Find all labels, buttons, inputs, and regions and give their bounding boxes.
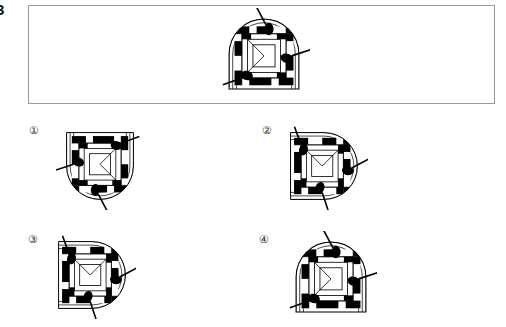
question-number: 3 [0, 2, 3, 18]
stimulus-figure [218, 8, 310, 100]
option-figure-1[interactable] [56, 122, 144, 210]
option-label-2: ② [262, 124, 272, 136]
option-label-1: ① [29, 124, 39, 136]
option-figure-2[interactable] [280, 122, 368, 210]
option-figure-4[interactable] [285, 231, 377, 323]
option-label-3: ③ [28, 233, 38, 245]
option-label-4: ④ [259, 233, 269, 245]
puzzle-page: 3 ① ② ③ ④ [0, 0, 506, 327]
option-figure-3[interactable] [48, 231, 136, 319]
